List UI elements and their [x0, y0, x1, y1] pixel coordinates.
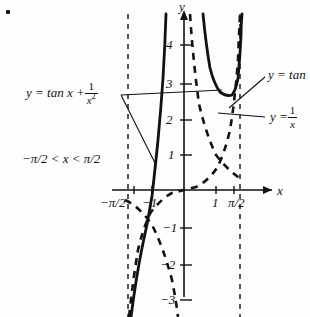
callout-main-equation: y = tan x +1x2: [26, 82, 98, 107]
x-axis-label: x: [277, 184, 283, 197]
callout-leader-lines: [121, 77, 265, 165]
callout-reciprocal-label: y =1x: [270, 106, 297, 131]
y-axis-label: y: [179, 0, 185, 13]
x-tick-label-neg-pi-over-2: −π/2: [100, 196, 125, 209]
fraction-denominator-exponent: 2: [92, 92, 96, 101]
figure-container: x y −π/2 −1 1 π/2 4 3 2 1 −1 −2 −3 y = t…: [0, 0, 310, 317]
leader-main-equation-to-tangent: [121, 95, 156, 165]
y-tick-label-2: 2: [166, 113, 173, 126]
callout-domain-note: −π/2 < x < π/2: [22, 152, 100, 165]
x-tick-label-neg-1: −1: [142, 196, 157, 209]
callout-main-equation-fraction: 1x2: [85, 81, 98, 106]
curve-main-right-branch: [203, 14, 242, 96]
y-tick-label-4: 4: [166, 38, 173, 51]
y-tick-label-neg-3: −3: [160, 293, 175, 306]
y-tick-label-neg-1: −1: [162, 221, 177, 234]
reciprocal-denominator: x: [288, 118, 298, 130]
reciprocal-numerator: 1: [288, 105, 298, 118]
y-axis: [180, 10, 188, 297]
y-tick-label-3: 3: [166, 77, 173, 90]
y-tick-label-1: 1: [168, 148, 175, 161]
x-tick-label-pi-over-2: π/2: [228, 196, 245, 209]
callout-reciprocal-prefix: y =: [270, 109, 288, 124]
fraction-denominator: x2: [85, 94, 98, 106]
callout-reciprocal-fraction: 1x: [288, 105, 298, 130]
y-tick-label-neg-2: −2: [160, 258, 175, 271]
callout-tangent-label: y = tan: [268, 68, 306, 81]
y-axis-ticks: [180, 45, 192, 300]
x-tick-label-1: 1: [212, 196, 219, 209]
callout-main-equation-prefix: y = tan x +: [26, 85, 85, 100]
leader-reciprocal-label: [218, 113, 265, 117]
